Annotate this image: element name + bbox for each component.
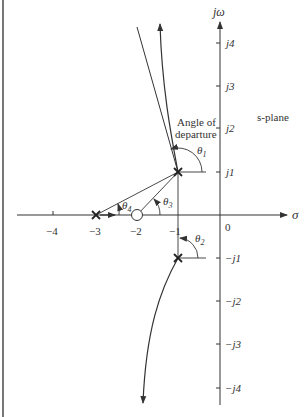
tick-label-negj4: −j4 <box>225 382 241 394</box>
departure-label-line1: Angle of <box>177 116 216 128</box>
tick-label-j4: j4 <box>224 37 235 49</box>
theta4-arc <box>118 204 119 215</box>
departure-label-line2: departure <box>175 128 217 140</box>
asymptote-line <box>137 27 178 172</box>
tick-label-j2: j2 <box>224 122 235 134</box>
tick-label-neg1: −1 <box>169 225 181 237</box>
tick-label-j1: j1 <box>224 166 235 178</box>
imaginary-axis: jω j4 j3 j2 j1 −j1 −j2 −j3 −j4 <box>211 5 241 405</box>
origin-label: 0 <box>225 221 231 233</box>
tick-label-negj2: −j2 <box>225 295 241 307</box>
tick-label-neg3: −3 <box>89 225 101 237</box>
tick-label-neg4: −4 <box>46 225 58 237</box>
sigma-label: σ <box>292 207 299 222</box>
tick-label-j3: j3 <box>224 80 235 92</box>
theta3-arc <box>154 199 160 215</box>
s-plane-label: s-plane <box>257 111 289 123</box>
upper-locus-branch <box>160 24 178 172</box>
tick-label-negj3: −j3 <box>225 338 241 350</box>
theta3-label: θ3 <box>163 195 172 210</box>
tick-label-neg2: −2 <box>130 225 142 237</box>
lower-locus-branch <box>143 258 178 403</box>
tick-label-negj1: −j1 <box>225 252 241 264</box>
jw-label: jω <box>211 5 225 19</box>
zero-marker-neg2 <box>132 210 143 221</box>
theta1-label: θ1 <box>197 144 206 159</box>
real-axis: σ −4 −3 −2 −1 0 <box>17 207 299 237</box>
root-locus-diagram: σ −4 −3 −2 −1 0 jω j4 j3 j2 j1 −j1 −j2 −… <box>0 0 308 417</box>
vector-from-pole-neg3 <box>96 172 178 215</box>
theta4-label: θ4 <box>122 199 131 214</box>
theta2-label: θ2 <box>195 232 204 247</box>
